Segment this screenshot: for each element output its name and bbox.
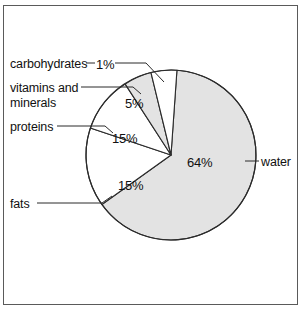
slice-value-vitamins-and-minerals: 5% bbox=[125, 96, 143, 111]
slice-label-carbohydrates: carbohydrates bbox=[10, 57, 87, 72]
slice-value-proteins: 15% bbox=[112, 131, 137, 146]
slice-label-vitamins-line2: minerals bbox=[10, 96, 78, 111]
slice-label-vitamins-and-minerals: vitamins and minerals bbox=[10, 81, 78, 111]
figure-container: carbohydrates vitamins and minerals prot… bbox=[0, 0, 303, 315]
slice-value-fats: 15% bbox=[118, 178, 143, 193]
pie-chart-graphic bbox=[0, 0, 303, 315]
slice-label-fats: fats bbox=[10, 197, 30, 212]
slice-value-carbohydrates: 1% bbox=[96, 57, 114, 72]
slice-label-water: water bbox=[261, 155, 291, 170]
slice-value-water: 64% bbox=[187, 155, 212, 170]
slice-label-vitamins-line1: vitamins and bbox=[10, 81, 78, 96]
slice-label-proteins: proteins bbox=[10, 120, 53, 135]
